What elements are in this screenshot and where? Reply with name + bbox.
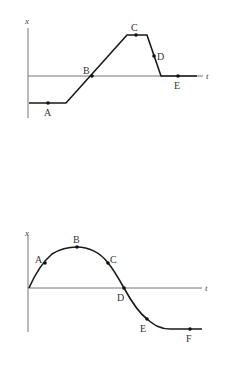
- graph2-label-f: F: [186, 333, 192, 344]
- graph2-point-f: [188, 327, 192, 331]
- graph2-label-c: C: [110, 254, 117, 265]
- graph2-label-e: E: [140, 323, 146, 334]
- graph1-y-axis-label: x: [24, 16, 29, 26]
- motion-graphs: x t A B C D E x t A B C D E F: [0, 0, 238, 367]
- graph1-label-a: A: [44, 107, 52, 118]
- graph2-y-axis-label: x: [24, 228, 29, 238]
- graph1-point-e: [176, 74, 180, 78]
- graph-1: x t A B C D E: [24, 16, 209, 118]
- graph2-point-b: [75, 245, 79, 249]
- graph1-point-a: [46, 101, 50, 105]
- graph1-label-c: C: [131, 22, 138, 33]
- graph1-x-axis-label: t: [206, 71, 209, 81]
- graph1-label-e: E: [174, 80, 180, 91]
- graph1-label-b: B: [83, 65, 90, 76]
- graph2-label-a: A: [35, 254, 43, 265]
- graph2-point-d: [122, 286, 126, 290]
- graph2-x-axis-label: t: [205, 283, 208, 293]
- graph1-point-b: [90, 74, 94, 78]
- graph2-label-d: D: [117, 292, 124, 303]
- graph2-point-a: [43, 261, 47, 265]
- graph1-label-d: D: [157, 51, 164, 62]
- graph-2: x t A B C D E F: [24, 228, 208, 344]
- graph1-curve: [29, 35, 197, 103]
- graph1-point-c: [134, 33, 138, 37]
- graph1-point-d: [152, 54, 156, 58]
- graph2-label-b: B: [73, 234, 80, 245]
- graph2-point-e: [145, 317, 149, 321]
